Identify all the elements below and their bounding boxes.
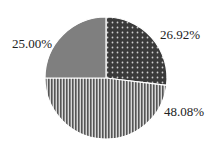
pie-chart	[0, 0, 214, 149]
slice-label-25-00: 25.00%	[12, 37, 52, 50]
pie-slice-1	[45, 78, 167, 139]
slice-label-48-08: 48.08%	[164, 105, 204, 118]
pie-slice-2	[45, 17, 106, 78]
slice-label-26-92: 26.92%	[160, 28, 200, 41]
pie-slice-0	[106, 17, 167, 85]
pie-slices	[45, 17, 167, 139]
